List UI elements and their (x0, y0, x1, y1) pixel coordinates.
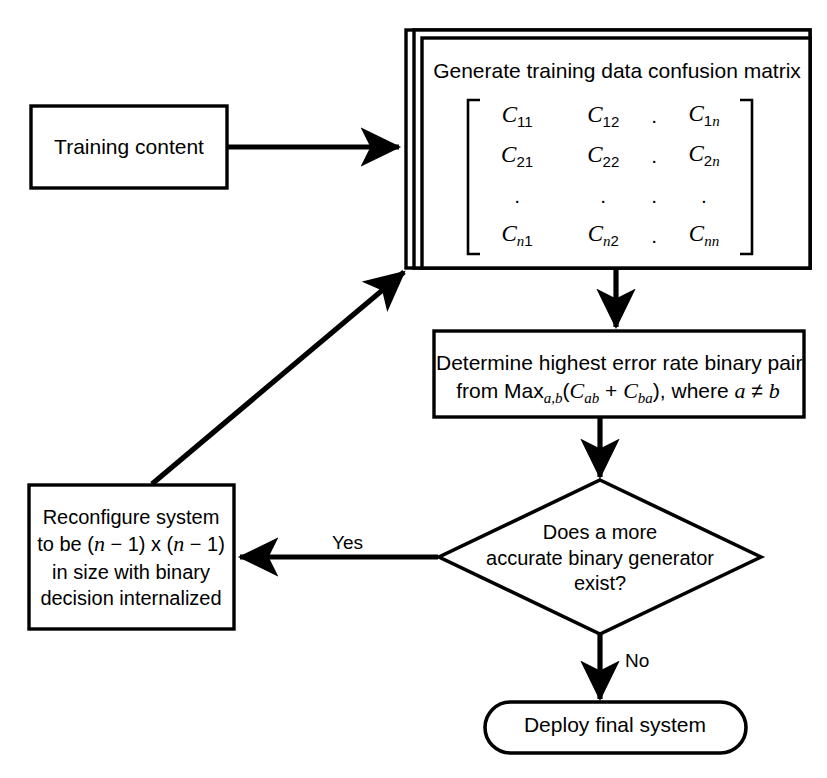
decision-line-1: Does a more (455, 520, 745, 546)
decision-line-2: accurate binary generator (455, 546, 745, 572)
determine-neq-symbol: ≠ (746, 379, 769, 402)
confusion-matrix: C11 C12 . C1n C21 C22 . C2n . . . . Cn1 … (460, 96, 760, 258)
reconfigure-line-3: in size with binary (26, 559, 236, 585)
reconfigure-mid: − 1) x ( (105, 533, 173, 555)
determine-line-2: from Maxa,b(Cab + Cba), where a ≠ b (436, 377, 800, 408)
reconfigure-prefix: to be ( (37, 533, 94, 555)
determine-var-b: b (769, 378, 780, 403)
determine-c2-sub: ba (638, 389, 653, 405)
reconfigure-suffix: − 1) (184, 533, 225, 555)
determine-c1-sub: ab (584, 389, 599, 405)
determine-pair-label: Determine highest error rate binary pair… (436, 350, 800, 408)
determine-open-paren: ( (563, 379, 570, 402)
edge-label-yes: Yes (332, 532, 363, 554)
determine-c1: C (570, 378, 585, 403)
determine-close-paren: ), where (653, 379, 735, 402)
reconfigure-var-n1: n (94, 531, 105, 556)
flowchart-canvas: Generate training data confusion matrix … (0, 0, 827, 778)
reconfigure-var-n2: n (173, 531, 184, 556)
reconfigure-line-2: to be (n − 1) x (n − 1) (26, 530, 236, 559)
determine-max-prefix: from Max (456, 379, 544, 402)
determine-plus: + (599, 379, 623, 402)
determine-var-a: a (735, 378, 746, 403)
reconfigure-line-1: Reconfigure system (26, 504, 236, 530)
reconfigure-label: Reconfigure system to be (n − 1) x (n − … (26, 504, 236, 611)
matrix-brackets (460, 96, 760, 258)
determine-c2: C (623, 378, 638, 403)
decision-line-3: exist? (455, 571, 745, 597)
edge-reconfigure-to-generate (152, 272, 404, 484)
reconfigure-line-4: decision internalized (26, 585, 236, 611)
determine-line-1: Determine highest error rate binary pair (436, 350, 800, 377)
training-content-label: Training content (30, 134, 228, 161)
determine-max-sub: a,b (544, 389, 563, 405)
edge-label-no: No (625, 650, 649, 672)
generate-matrix-title: Generate training data confusion matrix (432, 58, 802, 85)
deploy-final-system-label: Deploy final system (490, 712, 740, 739)
decision-label: Does a more accurate binary generator ex… (455, 520, 745, 597)
